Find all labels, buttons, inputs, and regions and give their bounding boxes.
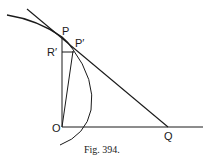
tangent-line xyxy=(27,9,168,127)
segment-OP-prime xyxy=(62,51,73,127)
label-Q: Q xyxy=(164,130,173,142)
label-P: P xyxy=(62,25,69,37)
figure-caption: Fig. 394. xyxy=(84,144,120,155)
arc xyxy=(60,48,92,145)
geometry-figure: P P′ R′ O Q Fig. 394. xyxy=(0,0,218,163)
label-R-prime: R′ xyxy=(47,46,57,58)
label-P-prime: P′ xyxy=(75,37,84,49)
label-O: O xyxy=(52,122,61,134)
